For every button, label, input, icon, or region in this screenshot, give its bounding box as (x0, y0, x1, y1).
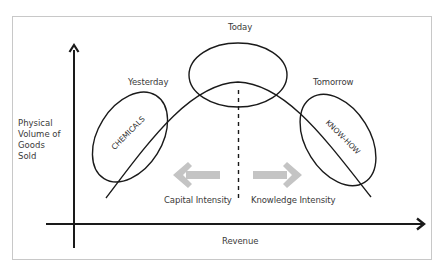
y-axis-label-line: Sold (18, 151, 78, 162)
y-axis-label-line: Goods (18, 140, 78, 151)
today-label: Today (228, 22, 252, 32)
capital-intensity-label: Capital Intensity (164, 195, 232, 205)
knowledge-intensity-label: Knowledge Intensity (251, 195, 336, 205)
y-axis-label-line: Volume of (18, 129, 78, 140)
yesterday-label: Yesterday (128, 77, 168, 87)
y-axis-label-line: Physical (18, 118, 78, 129)
x-axis-label: Revenue (222, 236, 258, 246)
tomorrow-label: Tomorrow (313, 77, 353, 87)
y-axis-label: Physical Volume of Goods Sold (18, 118, 78, 162)
